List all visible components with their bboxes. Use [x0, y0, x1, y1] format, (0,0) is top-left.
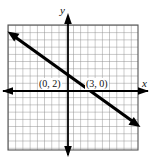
- y-axis-arrow-down: [64, 146, 72, 157]
- graph-figure: y x (0, 2) (3, 0): [0, 0, 153, 158]
- y-axis-label: y: [60, 5, 65, 16]
- graph-canvas: [0, 0, 153, 158]
- point-label-y-intercept: (0, 2): [38, 78, 62, 90]
- x-axis-label: x: [142, 78, 147, 89]
- point-label-x-intercept: (3, 0): [85, 78, 109, 90]
- grid-area: [8, 25, 138, 150]
- y-axis-arrow-up: [64, 13, 72, 24]
